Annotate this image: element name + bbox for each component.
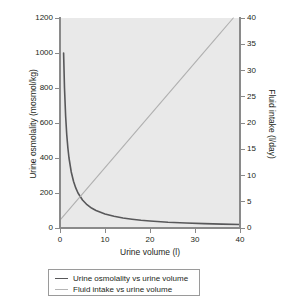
tick-label-left: 0 <box>19 223 53 232</box>
legend-line-swatch-osmolality <box>55 278 68 279</box>
x-axis-title: Urine volume (l) <box>60 247 240 257</box>
tick-mark-right <box>241 228 245 229</box>
legend-label-fluid-intake: Fluid intake vs urine volume <box>73 285 172 294</box>
tick-label-bottom: 0 <box>48 235 72 244</box>
chart-legend: Urine osmolality vs urine volume Fluid i… <box>48 269 200 296</box>
tick-mark-bottom <box>105 229 106 233</box>
y-axis-title-right: Fluid intake (l/day) <box>267 39 277 209</box>
tick-label-bottom: 20 <box>138 235 162 244</box>
tick-label-bottom: 30 <box>183 235 207 244</box>
legend-item-fluid-intake: Fluid intake vs urine volume <box>55 284 199 294</box>
legend-item-urine-osmolality: Urine osmolality vs urine volume <box>55 273 199 283</box>
series-line-urine-osmolality <box>64 53 240 225</box>
tick-mark-bottom <box>240 229 241 233</box>
legend-line-swatch-fluid-intake <box>55 289 68 290</box>
series-line-fluid-intake <box>60 18 233 220</box>
tick-mark-bottom <box>150 229 151 233</box>
legend-label-osmolality: Urine osmolality vs urine volume <box>73 274 188 283</box>
tick-mark-left <box>55 88 59 89</box>
axis-line-left <box>59 17 61 229</box>
tick-mark-right <box>241 149 245 150</box>
tick-label-right: 0 <box>247 223 271 232</box>
tick-mark-right <box>241 175 245 176</box>
tick-mark-left <box>55 228 59 229</box>
tick-label-left: 1200 <box>19 13 53 22</box>
tick-mark-right <box>241 201 245 202</box>
tick-mark-right <box>241 123 245 124</box>
tick-mark-left <box>55 158 59 159</box>
tick-mark-bottom <box>60 229 61 233</box>
tick-label-bottom: 10 <box>93 235 117 244</box>
tick-mark-left <box>55 193 59 194</box>
tick-label-bottom: 40 <box>228 235 252 244</box>
tick-mark-left <box>55 53 59 54</box>
tick-mark-bottom <box>195 229 196 233</box>
tick-mark-right <box>241 96 245 97</box>
tick-mark-left <box>55 18 59 19</box>
tick-mark-right <box>241 44 245 45</box>
chart-figure: 0200400600800100012000510152025303540010… <box>0 0 292 305</box>
y-axis-title-left: Urine osmolality (mosmol/kg) <box>28 39 38 209</box>
tick-mark-left <box>55 123 59 124</box>
tick-mark-right <box>241 70 245 71</box>
tick-label-right: 40 <box>247 13 271 22</box>
tick-mark-right <box>241 18 245 19</box>
